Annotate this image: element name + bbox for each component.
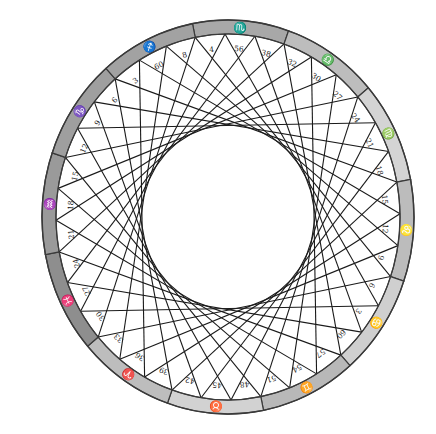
trine-chord bbox=[195, 37, 390, 276]
trine-chord bbox=[115, 79, 397, 182]
ring-inner-border bbox=[56, 34, 400, 400]
trine-chord bbox=[59, 44, 284, 252]
point-label: 21 bbox=[66, 229, 76, 239]
zodiac-ring bbox=[42, 20, 414, 414]
point-label: 4 bbox=[209, 45, 215, 54]
point-label: 48 bbox=[239, 380, 250, 390]
trine-chord bbox=[98, 37, 195, 337]
point-label: 12 bbox=[380, 224, 390, 234]
point-label: 18 bbox=[66, 200, 76, 210]
diagram-canvas: ♏♎♍♌♋♊♉♈♓♒♑♐ 456383230272421181512963605… bbox=[0, 0, 436, 434]
point-label: 45 bbox=[212, 380, 222, 390]
point-label: 15 bbox=[380, 194, 390, 205]
trine-chord bbox=[261, 97, 358, 397]
point-label: 56 bbox=[234, 44, 244, 54]
point-label: 54 bbox=[291, 362, 304, 374]
trine-chord bbox=[65, 157, 260, 396]
point-label: 60 bbox=[153, 59, 166, 71]
sign-glyph-taurus-icon: ♉ bbox=[208, 399, 223, 413]
point-label: 8 bbox=[181, 50, 188, 60]
sign-glyph-leo-icon: ♌ bbox=[399, 223, 413, 238]
sign-glyph-aquarius-icon: ♒ bbox=[43, 196, 57, 211]
trine-chord bbox=[172, 182, 397, 390]
trine-chords bbox=[56, 34, 400, 400]
sign-glyph-scorpio-icon: ♏ bbox=[233, 21, 248, 35]
point-label: 3 bbox=[131, 76, 140, 86]
zodiac-trine-diagram: ♏♎♍♌♋♊♉♈♓♒♑♐ 456383230272421181512963605… bbox=[0, 0, 436, 434]
trine-chord bbox=[59, 252, 341, 355]
